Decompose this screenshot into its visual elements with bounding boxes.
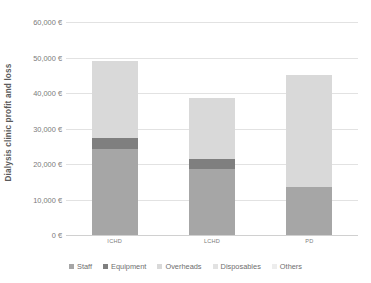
gridline — [66, 235, 358, 236]
legend-item-label: Overheads — [165, 262, 201, 271]
legend-item-label: Staff — [77, 262, 92, 271]
legend-swatch-icon — [272, 264, 277, 269]
bar-segment[interactable] — [92, 61, 138, 138]
y-axis-tick-label: 10,000 € — [2, 195, 62, 204]
y-axis-tick-mark — [59, 57, 62, 58]
y-axis-tick-label: 0 € — [2, 231, 62, 240]
y-axis-tick-label: 40,000 € — [2, 89, 62, 98]
x-axis-category-labels: ICHDLCHDPD — [66, 238, 358, 250]
y-axis-tick-label: 30,000 € — [2, 124, 62, 133]
y-axis-tick-mark — [59, 199, 62, 200]
bar-segment[interactable] — [92, 149, 138, 235]
legend-item[interactable]: Others — [272, 262, 302, 271]
x-axis-category-label: PD — [269, 238, 349, 244]
y-axis-tick-mark — [59, 128, 62, 129]
y-axis-tick-labels: 0 €10,000 €20,000 €30,000 €40,000 €50,00… — [0, 22, 62, 235]
y-axis-tick-label: 60,000 € — [2, 18, 62, 27]
legend-item-label: Others — [280, 262, 302, 271]
legend-item[interactable]: Disposables — [213, 262, 261, 271]
bar-segment[interactable] — [92, 138, 138, 149]
legend-swatch-icon — [157, 264, 162, 269]
y-axis-tick-mark — [59, 164, 62, 165]
bar-segment[interactable] — [189, 169, 235, 235]
chart-legend: StaffEquipmentOverheadsDisposablesOthers — [0, 262, 371, 271]
bar-segment[interactable] — [189, 159, 235, 169]
y-axis-tick-mark — [59, 235, 62, 236]
bar-column[interactable] — [189, 22, 235, 235]
x-axis-category-label: ICHD — [75, 238, 155, 244]
legend-item-label: Equipment — [111, 262, 146, 271]
bar-segment[interactable] — [286, 187, 332, 235]
legend-item[interactable]: Equipment — [103, 262, 146, 271]
x-axis-category-label: LCHD — [172, 238, 252, 244]
legend-item-label: Disposables — [221, 262, 261, 271]
bar-segment[interactable] — [286, 75, 332, 187]
legend-swatch-icon — [213, 264, 218, 269]
y-axis-tick-label: 50,000 € — [2, 53, 62, 62]
bar-column[interactable] — [286, 22, 332, 235]
stacked-bar-chart: Dialysis clinic profit and loss 0 €10,00… — [0, 0, 371, 283]
y-axis-tick-mark — [59, 22, 62, 23]
y-axis-tick-mark — [59, 93, 62, 94]
bar-segment[interactable] — [189, 98, 235, 159]
legend-item[interactable]: Staff — [69, 262, 92, 271]
legend-swatch-icon — [69, 264, 74, 269]
plot-area — [66, 22, 358, 235]
legend-item[interactable]: Overheads — [157, 262, 201, 271]
legend-swatch-icon — [103, 264, 108, 269]
y-axis-tick-label: 20,000 € — [2, 160, 62, 169]
bar-column[interactable] — [92, 22, 138, 235]
